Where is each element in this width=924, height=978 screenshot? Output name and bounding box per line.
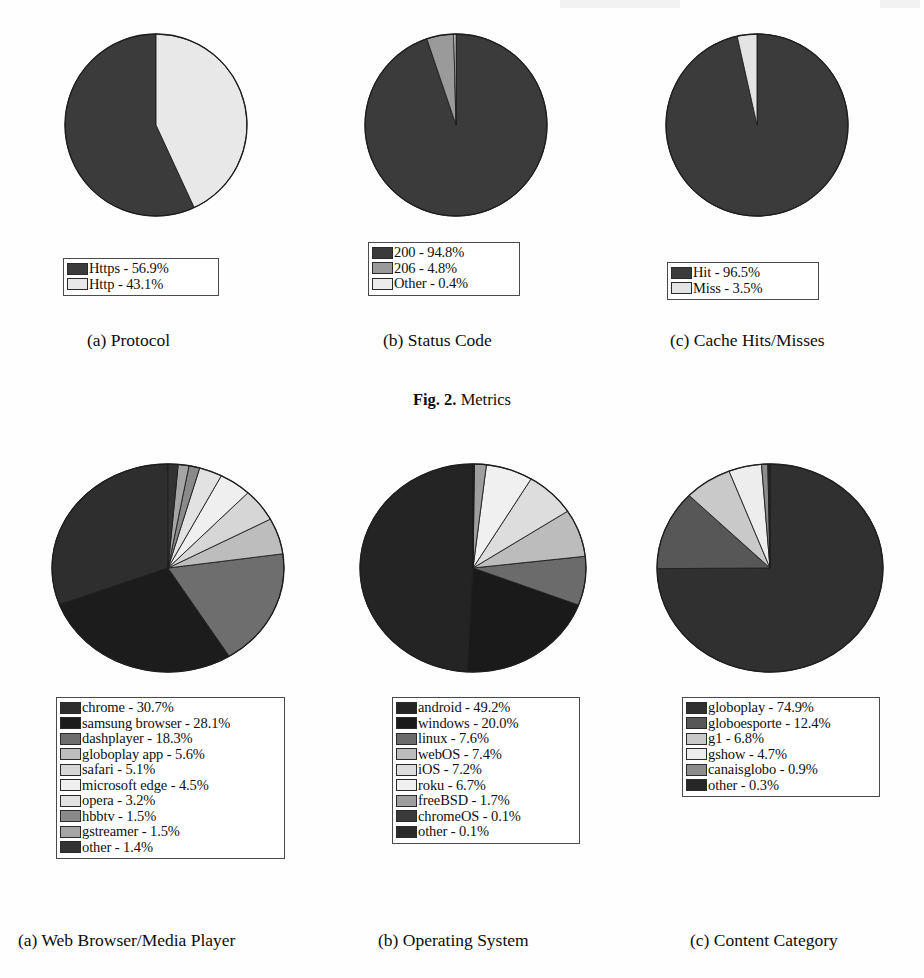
legend-label: gshow - 4.7% [708, 747, 787, 763]
legend-swatch [67, 263, 88, 275]
legend-label: hbbtv - 1.5% [82, 809, 156, 825]
legend-label: chrome - 30.7% [82, 700, 174, 716]
legend-item: globoesporte - 12.4% [686, 716, 875, 732]
legend-item: Http - 43.1% [67, 277, 214, 293]
legend-content: globoplay - 74.9%globoesporte - 12.4%g1 … [682, 697, 880, 797]
pie-os-svg [358, 462, 588, 674]
legend-item: samsung browser - 28.1% [60, 716, 280, 732]
figure-caption-rest: Metrics [457, 390, 512, 409]
legend-item: webOS - 7.4% [396, 747, 575, 763]
legend-label: canaisglobo - 0.9% [708, 762, 818, 778]
legend-swatch [372, 278, 393, 290]
pie-status-code-svg [363, 32, 549, 218]
legend-label: Hit - 96.5% [693, 265, 760, 281]
legend-item: linux - 7.6% [396, 731, 575, 747]
pie-slice [360, 464, 473, 672]
legend-browser: chrome - 30.7%samsung browser - 28.1%das… [56, 697, 285, 859]
subcaption-content: (c) Content Category [690, 930, 838, 951]
legend-label: webOS - 7.4% [418, 747, 502, 763]
legend-label: globoesporte - 12.4% [708, 716, 830, 732]
legend-swatch [60, 764, 81, 776]
legend-label: linux - 7.6% [418, 731, 489, 747]
legend-swatch [60, 826, 81, 838]
legend-item: chrome - 30.7% [60, 700, 280, 716]
legend-label: Miss - 3.5% [693, 281, 762, 297]
legend-label: dashplayer - 18.3% [82, 731, 193, 747]
scan-artifact [880, 0, 920, 8]
legend-item: Hit - 96.5% [671, 265, 814, 281]
legend-swatch [60, 841, 81, 853]
legend-item: chromeOS - 0.1% [396, 809, 575, 825]
legend-item: android - 49.2% [396, 700, 575, 716]
legend-swatch [396, 764, 417, 776]
pie-chart-status-code [363, 32, 549, 218]
figure-caption-bold: Fig. 2. [413, 390, 457, 409]
legend-label: g1 - 6.8% [708, 731, 764, 747]
legend-label: iOS - 7.2% [418, 762, 482, 778]
legend-item: other - 1.4% [60, 840, 280, 856]
legend-label: chromeOS - 0.1% [418, 809, 521, 825]
figure-page: Https - 56.9% Http - 43.1% 200 - 94.8% 2… [0, 0, 924, 978]
legend-swatch [372, 262, 393, 274]
legend-label: Http - 43.1% [89, 277, 163, 293]
legend-swatch [60, 779, 81, 791]
pie-browser-svg [50, 462, 286, 674]
legend-swatch [671, 282, 692, 294]
subcaption-protocol: (a) Protocol [87, 330, 170, 351]
legend-item: gshow - 4.7% [686, 747, 875, 763]
legend-item: Https - 56.9% [67, 261, 214, 277]
legend-swatch [686, 733, 707, 745]
legend-swatch [686, 717, 707, 729]
pie-chart-browser [50, 462, 286, 674]
legend-item: Miss - 3.5% [671, 281, 814, 297]
legend-item: other - 0.3% [686, 778, 875, 794]
legend-swatch [67, 278, 88, 290]
legend-swatch [60, 702, 81, 714]
legend-cache: Hit - 96.5% Miss - 3.5% [667, 262, 819, 300]
legend-status-code: 200 - 94.8% 206 - 4.8% Other - 0.4% [368, 242, 520, 296]
legend-item: safari - 5.1% [60, 762, 280, 778]
legend-item: gstreamer - 1.5% [60, 824, 280, 840]
legend-label: Other - 0.4% [394, 276, 468, 292]
legend-item: other - 0.1% [396, 824, 575, 840]
legend-item: hbbtv - 1.5% [60, 809, 280, 825]
legend-label: safari - 5.1% [82, 762, 155, 778]
legend-label: globoplay app - 5.6% [82, 747, 205, 763]
legend-swatch [396, 779, 417, 791]
legend-label: android - 49.2% [418, 700, 510, 716]
legend-protocol: Https - 56.9% Http - 43.1% [63, 258, 219, 296]
legend-label: microsoft edge - 4.5% [82, 778, 209, 794]
legend-item: canaisglobo - 0.9% [686, 762, 875, 778]
pie-chart-content [655, 462, 885, 674]
legend-item: dashplayer - 18.3% [60, 731, 280, 747]
legend-swatch [60, 733, 81, 745]
legend-label: Https - 56.9% [89, 261, 169, 277]
legend-label: other - 0.1% [418, 824, 489, 840]
legend-label: gstreamer - 1.5% [82, 824, 180, 840]
legend-swatch [60, 810, 81, 822]
legend-item: Other - 0.4% [372, 276, 515, 292]
legend-label: roku - 6.7% [418, 778, 486, 794]
legend-item: globoplay app - 5.6% [60, 747, 280, 763]
legend-swatch [396, 717, 417, 729]
subcaption-os: (b) Operating System [378, 930, 529, 951]
legend-label: freeBSD - 1.7% [418, 793, 510, 809]
legend-swatch [686, 748, 707, 760]
legend-swatch [396, 826, 417, 838]
legend-swatch [671, 267, 692, 279]
pie-chart-os [358, 462, 588, 674]
legend-swatch [396, 733, 417, 745]
subcaption-cache: (c) Cache Hits/Misses [670, 330, 825, 351]
legend-label: 206 - 4.8% [394, 261, 457, 277]
pie-cache-svg [664, 32, 850, 218]
figure-caption: Fig. 2. Metrics [0, 390, 924, 410]
legend-label: opera - 3.2% [82, 793, 155, 809]
pie-chart-cache [664, 32, 850, 218]
legend-label: other - 0.3% [708, 778, 779, 794]
legend-item: microsoft edge - 4.5% [60, 778, 280, 794]
legend-item: 206 - 4.8% [372, 261, 515, 277]
legend-label: 200 - 94.8% [394, 245, 464, 261]
pie-content-svg [655, 462, 885, 674]
legend-swatch [372, 247, 393, 259]
legend-swatch [396, 810, 417, 822]
